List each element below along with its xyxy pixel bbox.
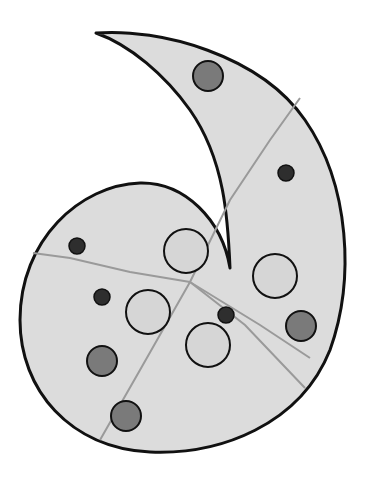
light-circle: [186, 323, 230, 367]
gray-circle: [286, 311, 316, 341]
gray-circle: [87, 346, 117, 376]
dark-circle: [218, 307, 234, 323]
dark-circle: [278, 165, 294, 181]
dark-circle: [69, 238, 85, 254]
gray-circle: [193, 61, 223, 91]
light-circle: [126, 290, 170, 334]
dark-circle: [94, 289, 110, 305]
paisley-illustration: [0, 0, 367, 483]
light-circle: [164, 229, 208, 273]
paisley-figure: [0, 0, 367, 483]
light-circle: [253, 254, 297, 298]
gray-circle: [111, 401, 141, 431]
